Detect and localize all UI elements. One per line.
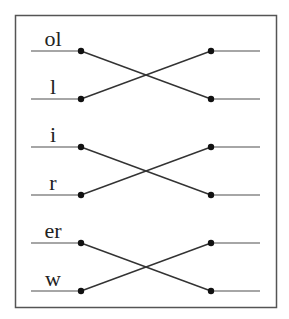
node-dot: [208, 96, 214, 102]
node-dot: [208, 240, 214, 246]
node-dot: [78, 96, 84, 102]
row-label: er: [44, 218, 62, 243]
crossing-diagram: ollirerw: [0, 0, 289, 319]
node-dot: [78, 240, 84, 246]
node-dot: [78, 288, 84, 294]
diagram-frame: [16, 16, 277, 308]
node-dot: [78, 144, 84, 150]
node-dot: [208, 192, 214, 198]
node-dot: [208, 48, 214, 54]
node-dot: [208, 288, 214, 294]
row-label: r: [49, 170, 57, 195]
diagram-rows: ollirerw: [31, 26, 260, 294]
node-dot: [78, 48, 84, 54]
row-label: w: [45, 266, 61, 291]
node-dot: [208, 144, 214, 150]
node-dot: [78, 192, 84, 198]
row-label: l: [50, 74, 56, 99]
row-label: ol: [44, 26, 61, 51]
row-label: i: [50, 122, 56, 147]
